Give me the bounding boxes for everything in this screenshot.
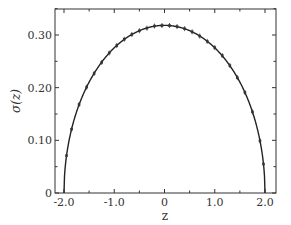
y-axis-label: σ(z): [9, 89, 23, 113]
x-tick-label: -1.0: [104, 196, 125, 209]
y-tick-label: 0.20: [28, 82, 53, 95]
x-tick-label: 0: [161, 196, 168, 209]
data-series-curve: [64, 25, 265, 193]
x-tick-label: -2.0: [53, 196, 74, 209]
data-series-markers: [65, 23, 265, 167]
x-tick-label: 1.0: [206, 196, 224, 209]
x-tick-label: 2.0: [256, 196, 274, 209]
x-axis-label: z: [162, 209, 168, 223]
y-tick-label: 0: [45, 187, 52, 200]
plot-frame: [55, 9, 276, 193]
y-tick-label: 0.30: [28, 29, 53, 42]
x-axis-ticks: -2.0-1.001.02.0: [53, 9, 273, 209]
chart: -2.0-1.001.02.0 00.100.200.30 z σ(z): [0, 0, 291, 225]
y-tick-label: 0.10: [28, 134, 53, 147]
